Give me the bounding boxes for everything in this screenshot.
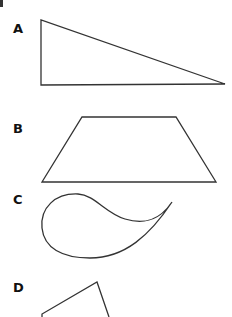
- teardrop-shape: [42, 194, 172, 258]
- shapes-canvas: [0, 0, 232, 317]
- partial-quadrilateral-shape: [42, 282, 109, 317]
- trapezoid-shape: [42, 117, 216, 182]
- right-triangle-shape: [41, 20, 225, 85]
